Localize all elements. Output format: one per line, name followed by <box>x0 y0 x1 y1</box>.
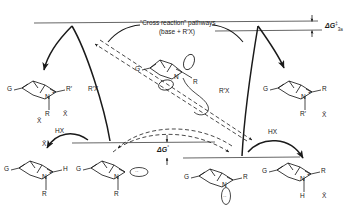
upper-right-axial-R: R′ <box>300 111 306 118</box>
lower-right-substituent-G: G <box>262 168 267 175</box>
lower-right-axial-H: H <box>300 193 305 200</box>
barrier-subscript: 3a <box>338 27 343 32</box>
center-substituent-G: G <box>135 66 140 73</box>
lower-left-counterion: X̄ <box>42 141 46 148</box>
upper-left-counterion: X̄ <box>63 111 67 118</box>
lower-cr-substituent-G: G <box>184 174 189 181</box>
cross-path-lower-right <box>113 134 229 152</box>
lone-pair-lobe-upper <box>181 53 196 72</box>
reagent-label-rx-left: R′X <box>88 86 98 93</box>
upper-right-charge: + <box>308 90 311 96</box>
lone-pair-lobe <box>130 168 148 177</box>
structure-lower-left-ammonium <box>11 161 62 190</box>
pathway-right-descend <box>258 26 284 68</box>
lower-right-charge: + <box>307 172 310 178</box>
lower-right-equatorial-R: R <box>321 168 326 175</box>
lower-cl-nitrogen: N <box>114 174 119 181</box>
barrier-energy-symbol: ΔG <box>325 22 335 29</box>
lower-cl-axial-R: R <box>114 191 119 198</box>
upper-left-axial-R: R <box>45 111 50 118</box>
cross-reaction-caption: “Cross reaction” pathways <box>140 20 214 27</box>
upper-left-nitrogen: N <box>45 94 50 101</box>
structure-center-amine <box>142 53 209 115</box>
lower-left-substituent-G: G <box>4 166 9 173</box>
center-equatorial-R: R <box>193 79 198 86</box>
lower-cl-substituent-G: G <box>76 166 81 173</box>
structure-lower-right-ammonium <box>269 163 320 192</box>
upper-left-charge: + <box>52 90 55 96</box>
pathway-hx-right <box>248 141 303 158</box>
upper-right-counterion: X̄ <box>322 112 326 119</box>
cross-reaction-pathways <box>95 40 252 152</box>
ground-energy-symbol: ΔG <box>157 146 167 153</box>
pathway-right-ascend <box>242 26 258 156</box>
barrier-dagger: ‡ <box>335 21 338 26</box>
reagent-label-hx-right: HX <box>268 129 277 136</box>
lower-right-counterion: X̄ <box>322 193 326 200</box>
lower-right-nitrogen: N <box>300 176 305 183</box>
lower-cl-lone-pair: ·· <box>135 169 139 175</box>
structure-upper-left-ammonium <box>14 81 65 110</box>
lower-left-axial-R: R <box>42 191 47 198</box>
reagent-label-hx-left: HX <box>55 128 64 135</box>
ground-standard-symbol: ° <box>167 145 169 150</box>
upper-left-substituent-G: G <box>7 86 12 93</box>
pathway-left-ascend <box>72 26 110 141</box>
lower-cr-lone-pair: ·· <box>223 194 227 200</box>
lower-left-charge: + <box>49 170 52 176</box>
lower-left-equatorial-H: H <box>63 166 68 173</box>
structure-lower-center-right-amine <box>191 169 242 205</box>
barrier-energy-label: ΔG‡3a <box>325 22 343 32</box>
caption-arc-right <box>212 25 243 42</box>
pathway-left-descend <box>44 26 72 70</box>
lower-cr-equatorial-R: R <box>243 174 248 181</box>
lower-cr-nitrogen: N <box>222 182 227 189</box>
upper-left-counterion-2: X̄ <box>37 118 41 125</box>
pathway-hx-left <box>47 134 88 148</box>
cross-reaction-caption-line2: (base + R′X) <box>140 29 214 36</box>
center-nitrogen: N <box>174 74 179 81</box>
structure-upper-right-ammonium <box>270 81 321 110</box>
upper-right-substituent-G: G <box>263 86 268 93</box>
energy-level-ground-lower <box>183 157 300 158</box>
reagent-label-rx-right: R′X <box>219 88 229 95</box>
cross-path-lower-left <box>118 129 232 148</box>
ground-energy-label: ΔG° <box>157 146 169 153</box>
lower-left-nitrogen: N <box>42 174 47 181</box>
energy-levels <box>34 21 322 158</box>
reaction-energy-diagram: “Cross reaction” pathways (base + R′X) Δ… <box>0 0 355 218</box>
upper-right-equatorial-R: R <box>322 86 327 93</box>
upper-right-nitrogen: N <box>301 94 306 101</box>
upper-left-equatorial-R: R′ <box>66 86 72 93</box>
energy-level-ground-upper <box>72 142 215 143</box>
caption-arc-left <box>108 25 140 42</box>
